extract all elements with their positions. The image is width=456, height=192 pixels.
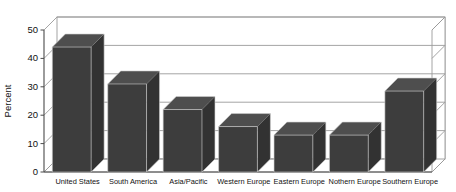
gridline-connector <box>44 17 57 30</box>
y-tick-label: 30 <box>27 81 38 92</box>
x-tick-label: Western Europe <box>217 177 270 186</box>
x-tick-label: United States <box>55 177 100 186</box>
y-tick-label: 20 <box>27 109 38 120</box>
x-tick-label: Asia/Pacific <box>169 177 208 186</box>
bar-side-face <box>424 78 437 172</box>
bar-4 <box>219 114 271 172</box>
bar-front-face <box>219 127 258 172</box>
x-tick-label: Eastern Europe <box>274 177 325 186</box>
y-tick-label: 10 <box>27 138 38 149</box>
bar-front-face <box>385 91 424 172</box>
chart-canvas: 01020304050 United StatesSouth AmericaAs… <box>0 0 456 192</box>
x-tick-label: Nothern Europe <box>329 177 381 186</box>
y-tick-label: 40 <box>27 52 38 63</box>
bar-front-face <box>329 135 368 172</box>
y-tick-label: 50 <box>27 24 38 35</box>
bar-front-face <box>108 84 147 172</box>
bar-7 <box>385 78 437 172</box>
y-axis-title: Percent <box>2 84 13 117</box>
y-tick-label: 0 <box>33 166 38 177</box>
bar-front-face <box>274 135 313 172</box>
bar-5 <box>274 122 326 172</box>
x-axis: United StatesSouth AmericaAsia/PacificWe… <box>55 177 438 186</box>
bar-front-face <box>52 47 91 172</box>
bar-side-face <box>147 71 160 172</box>
bar-1 <box>52 34 104 172</box>
bar-chart-3d: 01020304050 United StatesSouth AmericaAs… <box>0 0 456 192</box>
x-tick-label: South America <box>109 177 158 186</box>
bar-side-face <box>91 34 104 172</box>
bar-3 <box>163 97 215 172</box>
bar-2 <box>108 71 160 172</box>
bar-6 <box>329 122 381 172</box>
bar-front-face <box>163 110 202 172</box>
x-tick-label: Southern Europe <box>382 177 438 186</box>
